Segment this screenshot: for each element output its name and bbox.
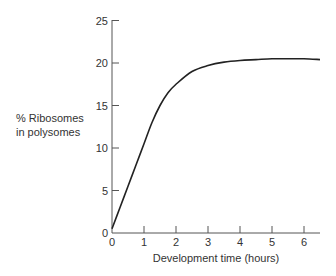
y-axis-label-line1: % Ribosomes xyxy=(16,112,84,124)
x-tick-label: 1 xyxy=(141,236,147,248)
x-ticks: 0123456 xyxy=(109,226,307,248)
x-tick-label: 4 xyxy=(237,236,243,248)
y-tick-label: 15 xyxy=(96,100,108,112)
axes xyxy=(112,20,320,233)
y-tick-label: 10 xyxy=(96,142,108,154)
x-tick-label: 5 xyxy=(269,236,275,248)
y-axis-label-line2: in polysomes xyxy=(16,126,81,138)
line-chart: 0510152025 0123456 Development time (hou… xyxy=(0,0,336,276)
y-tick-label: 5 xyxy=(102,185,108,197)
x-tick-label: 3 xyxy=(205,236,211,248)
x-tick-label: 6 xyxy=(301,236,307,248)
x-axis-label: Development time (hours) xyxy=(153,252,280,264)
y-tick-label: 20 xyxy=(96,57,108,69)
y-tick-label: 0 xyxy=(102,227,108,239)
x-tick-label: 2 xyxy=(173,236,179,248)
x-tick-label: 0 xyxy=(109,236,115,248)
data-line xyxy=(112,59,320,229)
y-tick-label: 25 xyxy=(96,15,108,27)
y-ticks: 0510152025 xyxy=(96,15,119,240)
